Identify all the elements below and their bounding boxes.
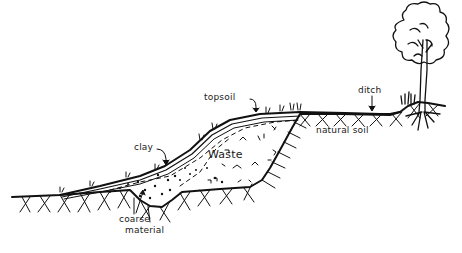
ditch-label: ditch: [358, 85, 381, 95]
waste-label: Waste: [208, 148, 243, 161]
clay-label: clay: [134, 142, 153, 152]
grass-tufts: [60, 103, 301, 192]
coarse-material-label-line1: coarse: [119, 214, 150, 224]
ditch-surface: [345, 112, 400, 114]
landfill-diagram: topsoil clay Waste natural soil ditch co…: [0, 0, 462, 253]
liner-dashes: [110, 120, 300, 190]
coarse-material-label-line2: material: [125, 225, 164, 235]
topsoil-label: topsoil: [204, 92, 235, 102]
natural-soil-label: natural soil: [316, 125, 369, 135]
